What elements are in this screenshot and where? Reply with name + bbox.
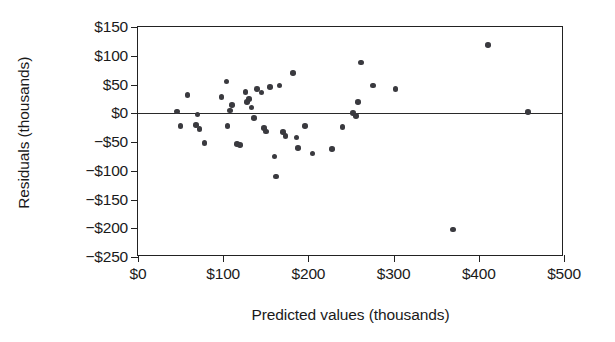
scatter-point xyxy=(310,151,316,157)
scatter-point xyxy=(290,70,296,76)
y-tick-mark xyxy=(131,228,138,229)
scatter-point xyxy=(185,92,191,98)
scatter-point xyxy=(295,145,301,151)
scatter-point xyxy=(272,154,278,160)
scatter-point xyxy=(353,113,359,119)
y-tick-label: −$50 xyxy=(94,134,128,150)
y-tick-label: $50 xyxy=(103,77,128,93)
scatter-point xyxy=(273,174,279,180)
x-tick-mark xyxy=(564,255,565,262)
y-tick-label: −$200 xyxy=(85,221,128,237)
plot-area: $150$100$50$0−$50−$100−$150−$200−$250 $0… xyxy=(137,26,563,256)
x-tick-mark xyxy=(394,255,395,262)
y-tick-mark xyxy=(131,113,138,114)
scatter-point xyxy=(237,142,243,148)
scatter-point xyxy=(178,123,184,129)
scatter-point xyxy=(358,60,364,66)
y-axis-title: Residuals (thousands) xyxy=(16,23,32,243)
x-axis-title: Predicted values (thousands) xyxy=(137,307,564,323)
y-tick-mark xyxy=(131,171,138,172)
x-tick-label: $0 xyxy=(130,266,147,282)
scatter-point xyxy=(243,89,249,95)
y-tick-mark xyxy=(131,56,138,57)
scatter-point xyxy=(277,83,283,89)
scatter-point xyxy=(450,227,456,233)
y-tick-label: $0 xyxy=(111,106,128,122)
y-tick-mark xyxy=(131,257,138,258)
scatter-point xyxy=(263,129,269,135)
x-tick-mark xyxy=(479,255,480,262)
scatter-point xyxy=(283,133,289,139)
scatter-point xyxy=(259,90,265,96)
scatter-point xyxy=(355,99,361,105)
x-tick-mark xyxy=(308,255,309,262)
scatter-point xyxy=(229,102,235,108)
scatter-point xyxy=(329,146,335,152)
scatter-point xyxy=(249,105,255,111)
x-tick-label: $300 xyxy=(377,266,411,282)
scatter-point xyxy=(485,42,491,48)
x-tick-label: $400 xyxy=(462,266,496,282)
x-tick-mark xyxy=(138,255,139,262)
scatter-point xyxy=(393,86,399,92)
y-tick-label: −$100 xyxy=(85,163,128,179)
y-tick-label: $100 xyxy=(94,48,128,64)
scatter-point xyxy=(195,112,201,118)
y-tick-mark xyxy=(131,142,138,143)
scatter-point xyxy=(525,109,531,115)
y-tick-mark xyxy=(131,85,138,86)
scatter-point xyxy=(219,94,225,100)
x-tick-label: $500 xyxy=(547,266,581,282)
scatter-point xyxy=(294,135,300,141)
scatter-point xyxy=(370,83,376,89)
scatter-point xyxy=(227,108,233,114)
y-tick-label: −$150 xyxy=(85,192,128,208)
y-tick-mark xyxy=(131,200,138,201)
scatter-point xyxy=(225,123,231,129)
scatter-point xyxy=(202,140,208,146)
scatter-point xyxy=(197,126,203,132)
scatter-point xyxy=(251,115,257,121)
x-tick-label: $200 xyxy=(292,266,326,282)
x-tick-mark xyxy=(223,255,224,262)
x-tick-label: $100 xyxy=(206,266,240,282)
residual-plot-figure: Residuals (thousands) $150$100$50$0−$50−… xyxy=(0,0,615,342)
scatter-point xyxy=(267,84,273,90)
y-tick-mark xyxy=(131,27,138,28)
scatter-point xyxy=(224,79,230,85)
scatter-point xyxy=(246,96,252,102)
y-tick-label: −$250 xyxy=(85,249,128,265)
y-tick-label: $150 xyxy=(94,19,128,35)
scatter-point xyxy=(340,124,346,130)
scatter-point xyxy=(302,123,308,129)
